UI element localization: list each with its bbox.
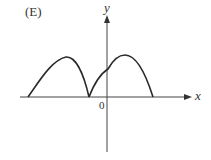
curve-left-arch: [28, 57, 89, 97]
origin-label: 0: [99, 100, 105, 111]
panel-label: (E): [25, 5, 42, 18]
curve-right-arch: [89, 55, 153, 97]
graph-canvas: [0, 0, 211, 160]
x-axis-label: x: [195, 89, 201, 102]
y-axis-arrow-icon: [104, 15, 110, 23]
graph-figure: (E) y x 0: [0, 0, 211, 160]
y-axis-label: y: [104, 1, 110, 14]
x-axis-arrow-icon: [184, 94, 192, 100]
